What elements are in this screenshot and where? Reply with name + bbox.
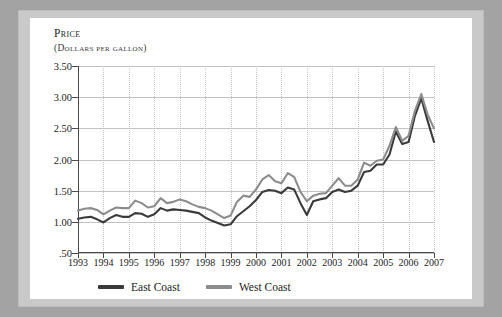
chart-legend: East CoastWest Coast [98,281,291,293]
x-axis-tick-label: 1995 [119,257,139,268]
x-axis-tick-labels: 1993199419951996199719981999200020012002… [78,257,434,273]
x-axis-tick [434,253,435,258]
x-axis-tick [332,253,333,258]
gridline-vertical [434,66,435,253]
y-axis-tick-label: 3.50 [54,61,72,72]
legend-item-west-coast: West Coast [206,281,291,293]
x-axis-tick [358,253,359,258]
x-axis-tick [154,253,155,258]
x-axis-tick [281,253,282,258]
x-axis-tick-label: 2006 [399,257,419,268]
x-axis-tick-label: 2005 [373,257,393,268]
x-axis-tick [78,253,79,258]
x-axis-tick [383,253,384,258]
legend-swatch [98,285,124,288]
y-axis-tick-label: 1.00 [54,216,72,227]
x-axis-tick [205,253,206,258]
x-axis-tick [307,253,308,258]
x-axis-tick-label: 1993 [68,257,88,268]
x-axis-tick-label: 1994 [93,257,113,268]
y-axis-tick-labels: 3.503.002.502.001.501.00.50 [0,66,72,253]
y-axis-title-units: (Dollars per gallon) [54,43,147,53]
x-axis-tick-label: 1998 [195,257,215,268]
x-axis-tick-label: 2003 [322,257,342,268]
x-axis-tick-label: 2004 [348,257,368,268]
chart-screenshot: Price (Dollars per gallon) 3.503.002.502… [0,0,502,317]
legend-label: East Coast [131,281,180,293]
x-axis-tick-label: 2001 [271,257,291,268]
x-axis-tick [103,253,104,258]
x-axis-tick-label: 2002 [297,257,317,268]
x-axis-tick [180,253,181,258]
x-axis-tick [256,253,257,258]
x-axis-tick-label: 2007 [424,257,444,268]
legend-label: West Coast [239,281,291,293]
x-axis-tick [231,253,232,258]
x-axis-tick-label: 1999 [221,257,241,268]
plot-area [78,66,434,253]
x-axis-tick-label: 1997 [170,257,190,268]
legend-item-east-coast: East Coast [98,281,180,293]
y-axis-tick-label: 2.50 [54,123,72,134]
x-axis-tick-label: 1996 [144,257,164,268]
x-axis-tick-label: 2000 [246,257,266,268]
data-series-lines [78,66,434,253]
x-axis-tick [129,253,130,258]
x-axis-tick [409,253,410,258]
legend-swatch [206,285,232,288]
y-axis-title-primary: Price [54,27,81,39]
y-axis-tick-label: 2.00 [54,154,72,165]
y-axis-tick-label: 3.00 [54,92,72,103]
y-axis-tick-label: 1.50 [54,185,72,196]
